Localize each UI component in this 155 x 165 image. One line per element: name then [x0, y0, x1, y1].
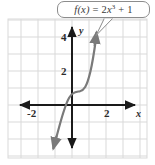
equation-text: f(x) = 2x3 + 1: [74, 4, 132, 15]
equation-exponent: 3: [112, 3, 116, 11]
equation-plus: +: [118, 4, 124, 15]
y-axis-label: y: [79, 25, 83, 36]
cubic-function-graph: f(x) = 2x3 + 1 4 2 -2 2 y x: [0, 0, 155, 165]
x-tick-label-negative-2: -2: [27, 107, 36, 119]
equation-fn-name: f(x): [74, 4, 89, 15]
plot-area: [0, 0, 155, 165]
equation-constant: 1: [127, 4, 132, 15]
x-axis-label: x: [136, 108, 141, 119]
y-tick-label-4: 4: [61, 31, 67, 43]
x-tick-label-2: 2: [104, 107, 110, 119]
equation-equals: =: [92, 4, 98, 15]
equation-callout: f(x) = 2x3 + 1: [57, 1, 150, 18]
y-tick-label-2: 2: [61, 65, 67, 77]
